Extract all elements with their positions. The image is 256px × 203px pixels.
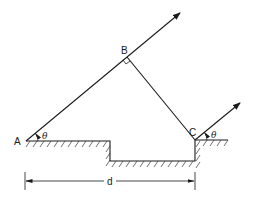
geometry-diagram: A B C θ θ d <box>0 0 256 203</box>
ray-a-b <box>26 13 180 141</box>
right-angle-marker <box>123 60 130 64</box>
point-label-c: C <box>189 127 196 138</box>
point-label-b: B <box>121 45 128 56</box>
dimension-label-d: d <box>107 176 113 187</box>
angle-label-c: θ <box>211 130 217 140</box>
angle-arc-a <box>36 134 39 142</box>
ground-hatching <box>26 140 228 168</box>
ray-c <box>195 103 240 140</box>
angle-label-a: θ <box>42 131 48 141</box>
segment-b-c <box>127 57 195 140</box>
dimension-d: d <box>25 172 195 190</box>
point-label-a: A <box>14 136 21 147</box>
angle-arc-c <box>205 133 208 141</box>
